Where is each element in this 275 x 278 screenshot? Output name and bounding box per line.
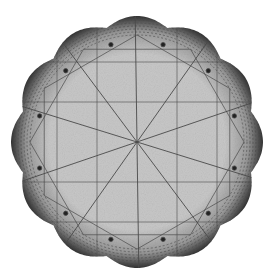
tiling-disk — [11, 16, 263, 268]
hyperbolic-tiling-image — [0, 0, 275, 278]
